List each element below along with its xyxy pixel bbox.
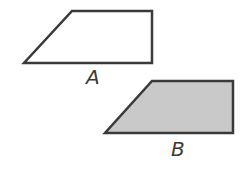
trapezoid-b — [105, 81, 233, 133]
trapezoid-a — [24, 11, 152, 63]
diagram-canvas: A B — [0, 0, 247, 170]
shapes-svg — [0, 0, 247, 170]
label-b: B — [171, 139, 185, 159]
label-a: A — [86, 67, 100, 87]
